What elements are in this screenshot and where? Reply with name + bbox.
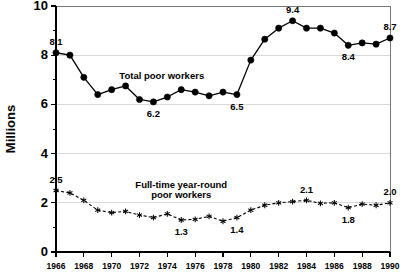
data-point-label: 8.1 (49, 36, 63, 47)
x-tick-label: 1966 (47, 261, 66, 271)
data-point-marker (193, 216, 198, 222)
data-point-marker (318, 200, 323, 206)
data-point-marker (164, 94, 170, 100)
data-point-marker (303, 25, 309, 31)
data-point-marker (150, 99, 156, 105)
data-point-marker (331, 30, 337, 36)
data-point-marker (276, 25, 282, 31)
data-point-label: 2.1 (300, 184, 314, 195)
data-point-marker (81, 74, 87, 80)
data-point-marker (262, 202, 267, 208)
x-tick-label: 1976 (186, 261, 205, 271)
series-line-1 (56, 191, 390, 222)
series-label: Total poor workers (119, 70, 204, 81)
data-point-marker (67, 52, 73, 58)
data-point-marker (373, 41, 379, 47)
data-point-marker (234, 91, 240, 97)
y-axis-title-text: Millions (3, 105, 18, 153)
data-point-label: 2.0 (383, 186, 396, 197)
x-axis-ticks (56, 252, 390, 257)
data-point-label: 6.5 (230, 101, 244, 112)
x-tick-label: 1990 (381, 261, 400, 271)
x-tick-label: 1988 (353, 261, 372, 271)
y-tick-label: 4 (41, 146, 49, 161)
data-point-marker (178, 87, 184, 93)
y-axis-title: Millions (3, 105, 18, 153)
data-point-marker (53, 50, 59, 56)
y-tick-label: 10 (34, 0, 48, 13)
line-chart: 0246810 19661968197019721974197619781980… (0, 0, 400, 274)
data-point-labels: 8.16.26.59.48.48.72.51.31.42.11.82.0 (49, 4, 396, 237)
data-point-marker (317, 25, 323, 31)
data-point-label: 8.4 (342, 51, 356, 62)
x-axis-tick-labels: 1966196819701972197419761978198019821984… (47, 261, 400, 271)
x-tick-label: 1970 (102, 261, 121, 271)
data-point-marker (248, 57, 254, 63)
y-tick-label: 6 (41, 96, 48, 111)
y-axis-tick-labels: 0246810 (34, 0, 49, 259)
data-point-marker (192, 89, 198, 95)
data-point-marker (220, 89, 226, 95)
y-tick-label: 0 (41, 244, 48, 259)
x-tick-label: 1968 (74, 261, 93, 271)
data-series-group (53, 18, 393, 224)
x-tick-label: 1974 (158, 261, 177, 271)
data-point-marker (122, 83, 128, 89)
series-label: poor workers (151, 189, 211, 200)
data-point-label: 9.4 (286, 4, 300, 15)
data-point-label: 1.4 (230, 224, 244, 235)
plot-frame (56, 6, 390, 252)
data-point-marker (136, 96, 142, 102)
data-point-marker (289, 18, 295, 24)
data-point-marker (81, 197, 86, 203)
data-point-label: 1.3 (175, 226, 188, 237)
data-point-marker (359, 40, 365, 46)
data-point-marker (206, 93, 212, 99)
x-tick-label: 1984 (297, 261, 316, 271)
data-point-marker (95, 91, 101, 97)
data-point-label: 1.8 (342, 214, 355, 225)
data-point-marker (345, 42, 351, 48)
chart-container: 0246810 19661968197019721974197619781980… (0, 0, 400, 274)
data-point-marker (248, 207, 253, 213)
data-point-marker (262, 36, 268, 42)
y-tick-label: 8 (41, 47, 48, 62)
x-tick-label: 1982 (269, 261, 288, 271)
data-point-marker (387, 35, 393, 41)
x-tick-label: 1980 (241, 261, 260, 271)
x-tick-label: 1986 (325, 261, 344, 271)
data-point-marker (109, 87, 115, 93)
data-point-label: 2.5 (49, 174, 63, 185)
data-point-label: 8.7 (383, 21, 396, 32)
data-point-label: 6.2 (147, 108, 160, 119)
y-tick-label: 2 (41, 195, 48, 210)
x-tick-label: 1978 (214, 261, 233, 271)
data-point-marker (207, 213, 212, 219)
data-point-marker (374, 202, 379, 208)
series-inline-labels: Total poor workersFull-time year-roundpo… (119, 70, 227, 200)
data-point-marker (179, 217, 184, 223)
x-tick-label: 1972 (130, 261, 149, 271)
